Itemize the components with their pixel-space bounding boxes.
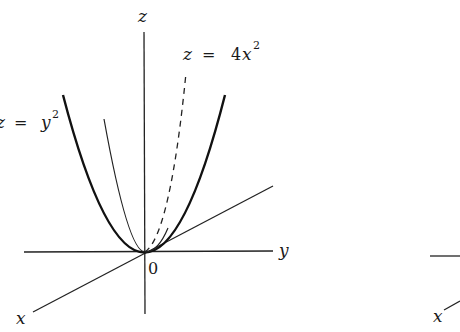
z-axis-label: z — [137, 6, 148, 26]
right-figure-x-label: x — [433, 306, 443, 326]
curve-z-equals-4x-squared — [145, 73, 186, 252]
diagram-canvas: z y x 0 z = y 2 z = 4 x 2 x — [0, 0, 460, 332]
parabola-diagram: z y x 0 z = y 2 z = 4 x 2 x — [0, 0, 460, 332]
label-z-4x2-lhs: z — [182, 44, 193, 64]
z-axis — [144, 32, 145, 314]
x-axis-label: x — [16, 308, 26, 328]
label-z-4x2-exp: 2 — [253, 39, 260, 52]
label-z-y2-var: y — [40, 112, 51, 132]
label-z-y2-exp: 2 — [52, 108, 59, 121]
label-z-4x2-var: x — [242, 44, 252, 64]
origin-label: 0 — [148, 259, 158, 278]
label-z-4x2-coef: 4 — [231, 45, 241, 64]
label-z-y2-eq: = — [14, 113, 27, 132]
right-figure-x-axis-stub — [444, 301, 460, 310]
y-axis-label: y — [278, 240, 289, 260]
label-z-4x2-eq: = — [202, 45, 215, 64]
label-z-y2-lhs: z — [0, 112, 6, 132]
